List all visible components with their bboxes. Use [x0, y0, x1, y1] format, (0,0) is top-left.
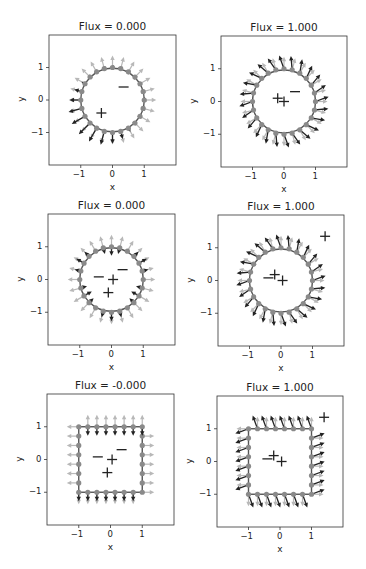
- node-dot: [282, 492, 287, 497]
- node-dot: [300, 426, 305, 431]
- node-dot: [309, 473, 314, 478]
- node-dot: [264, 426, 269, 431]
- node-dot: [246, 492, 251, 497]
- node-dot: [246, 426, 251, 431]
- node-dot: [264, 492, 269, 497]
- node-dot: [255, 426, 260, 431]
- node-dot: [273, 426, 278, 431]
- node-dot: [246, 436, 251, 441]
- node-dot: [309, 492, 314, 497]
- node-dot: [291, 426, 296, 431]
- node-dot: [291, 492, 296, 497]
- node-dot: [309, 482, 314, 487]
- node-dot: [309, 454, 314, 459]
- node-dot: [282, 426, 287, 431]
- node-dot: [309, 464, 314, 469]
- node-dot: [246, 445, 251, 450]
- node-dot: [309, 426, 314, 431]
- node-dot: [300, 492, 305, 497]
- node-dot: [246, 464, 251, 469]
- plus-charge-icon: [319, 412, 329, 422]
- node-dot: [273, 492, 278, 497]
- node-dot: [246, 482, 251, 487]
- quiver-plot: [0, 0, 366, 569]
- node-dot: [309, 445, 314, 450]
- node-dot: [309, 436, 314, 441]
- node-dot: [255, 492, 260, 497]
- node-dot: [246, 473, 251, 478]
- node-dot: [246, 454, 251, 459]
- plus-charge-icon: [277, 457, 287, 467]
